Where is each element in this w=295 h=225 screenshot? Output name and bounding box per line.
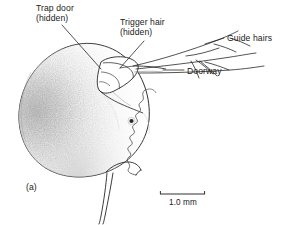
stalk [99,173,113,224]
bladder-body [10,35,160,190]
label-doorway: Doorway [187,66,222,76]
label-trap-door-line2: (hidden) [36,13,74,23]
panel-label: (a) [26,182,37,192]
label-trap-door: Trap door (hidden) [36,3,74,24]
label-guide-hairs-line1: Guide hairs [227,33,272,43]
figure-panel: Trap door (hidden) Trigger hair (hidden)… [0,0,295,225]
label-guide-hairs: Guide hairs [227,33,272,43]
label-trigger-hair-line2: (hidden) [120,27,165,37]
scale-bar-label: 1.0 mm [160,198,206,208]
leader-guide-hairs [205,38,224,44]
scale-bar [160,191,205,194]
label-trigger-hair-line1: Trigger hair [120,17,165,27]
label-trigger-hair: Trigger hair (hidden) [120,17,165,38]
label-doorway-line1: Doorway [187,66,222,76]
gland-dot [129,119,133,123]
label-trap-door-line1: Trap door [36,3,74,13]
